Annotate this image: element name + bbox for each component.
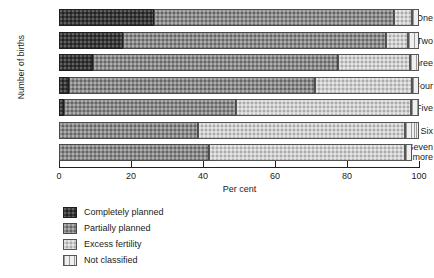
legend-label: Partially planned (84, 223, 151, 233)
legend-swatch-partially (63, 223, 77, 234)
x-tick-label-100: 100 (404, 171, 434, 181)
x-axis-title: Per cent (59, 184, 420, 194)
bar-segment-excess (394, 9, 412, 26)
bar-segment-completely (59, 32, 123, 49)
bar-segment-partially (154, 9, 393, 26)
bar-segment-excess (198, 122, 405, 139)
bar-segment-partially (69, 77, 315, 94)
x-tick-label-20: 20 (116, 171, 146, 181)
bar-segment-partially (59, 144, 209, 161)
bar-row (59, 32, 419, 49)
x-tick (347, 161, 348, 168)
x-tick-label-80: 80 (332, 171, 362, 181)
legend-item: Partially planned (63, 220, 303, 236)
chart-legend: Completely plannedPartially plannedExces… (63, 204, 303, 268)
y-axis-title: Number of births (16, 12, 26, 122)
legend-swatch-excess (63, 239, 77, 250)
x-tick (203, 161, 204, 168)
x-tick (275, 161, 276, 168)
bar-segment-partially (59, 122, 198, 139)
bar-segment-completely (59, 77, 69, 94)
legend-item: Completely planned (63, 204, 303, 220)
x-tick-label-60: 60 (260, 171, 290, 181)
legend-item: Not classified (63, 252, 303, 268)
legend-swatch-completely (63, 207, 77, 218)
x-tick-label-0: 0 (44, 171, 74, 181)
x-axis-line (59, 167, 420, 168)
bar-segment-notclass (412, 77, 419, 94)
bar-segment-completely (59, 9, 154, 26)
bar-row (59, 54, 419, 71)
bar-segment-notclass (410, 54, 419, 71)
bar-row (59, 122, 419, 139)
x-tick (131, 161, 132, 168)
bar-segment-excess (236, 99, 411, 116)
bar-segment-partially (123, 32, 386, 49)
bar-segment-excess (338, 54, 410, 71)
bar-segment-excess (209, 144, 404, 161)
bar-segment-notclass (405, 144, 412, 161)
bar-segment-excess (315, 77, 412, 94)
bar-row (59, 99, 419, 116)
bar-row (59, 9, 419, 26)
bar-segment-completely (59, 54, 93, 71)
bar-segment-notclass (411, 99, 419, 116)
bar-segment-partially (93, 54, 338, 71)
legend-label: Not classified (84, 255, 138, 265)
x-axis-right-cap (419, 161, 420, 168)
x-tick-label-40: 40 (188, 171, 218, 181)
legend-item: Excess fertility (63, 236, 303, 252)
x-axis-left-cap (59, 161, 60, 168)
legend-label: Completely planned (84, 207, 164, 217)
bar-row (59, 144, 419, 161)
bar-segment-notclass (405, 122, 419, 139)
bar-segment-notclass (408, 32, 419, 49)
legend-swatch-notclass (63, 255, 77, 266)
bar-segment-excess (386, 32, 408, 49)
bar-segment-notclass (412, 9, 419, 26)
bar-segment-partially (64, 99, 236, 116)
bar-row (59, 77, 419, 94)
legend-label: Excess fertility (84, 239, 142, 249)
plot-area (59, 9, 419, 167)
